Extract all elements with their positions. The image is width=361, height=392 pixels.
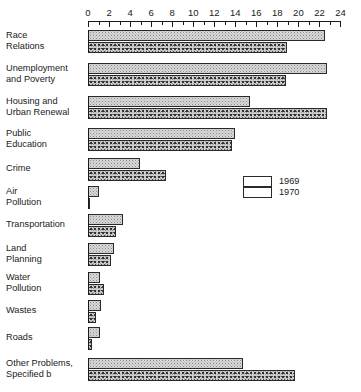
bar-1969 bbox=[88, 128, 235, 139]
bar-1969 bbox=[88, 158, 140, 169]
category-baseline bbox=[88, 186, 89, 209]
category-baseline bbox=[88, 272, 89, 295]
bar-1970 bbox=[88, 170, 166, 181]
legend-swatch-1970 bbox=[243, 187, 272, 198]
category-baseline bbox=[88, 30, 89, 53]
bar-1969 bbox=[88, 214, 123, 225]
bar-1970 bbox=[88, 75, 286, 86]
category-baseline bbox=[88, 358, 89, 381]
bar-1969 bbox=[88, 327, 100, 338]
bar-1970 bbox=[88, 140, 232, 151]
bar-1970 bbox=[88, 255, 111, 266]
category-baseline bbox=[88, 243, 89, 266]
bar-1970 bbox=[88, 226, 116, 237]
bar-1970 bbox=[88, 370, 295, 381]
bar-1970 bbox=[88, 312, 96, 323]
horizontal-bar-chart: 024681012141618202224 Race RelationsUnem… bbox=[0, 0, 361, 392]
bar-1969 bbox=[88, 186, 99, 197]
bar-1970 bbox=[88, 108, 327, 119]
category-baseline bbox=[88, 300, 89, 323]
bar-1969 bbox=[88, 243, 114, 254]
bar-1969 bbox=[88, 30, 325, 41]
bar-1970 bbox=[88, 284, 104, 295]
bar-1969 bbox=[88, 63, 327, 74]
category-baseline bbox=[88, 327, 89, 350]
category-baseline bbox=[88, 63, 89, 86]
legend-label-1970: 1970 bbox=[279, 187, 299, 198]
legend-swatch-1969 bbox=[243, 176, 272, 187]
bar-1969 bbox=[88, 96, 250, 107]
category-baseline bbox=[88, 158, 89, 181]
legend-label-1969: 1969 bbox=[279, 176, 299, 187]
bar-1969 bbox=[88, 300, 101, 311]
category-baseline bbox=[88, 96, 89, 119]
bar-1969 bbox=[88, 358, 243, 369]
category-baseline bbox=[88, 128, 89, 151]
category-baseline bbox=[88, 214, 89, 237]
bar-1969 bbox=[88, 272, 100, 283]
bar-1970 bbox=[88, 42, 287, 53]
chart-legend: 1969 1970 bbox=[243, 176, 328, 202]
